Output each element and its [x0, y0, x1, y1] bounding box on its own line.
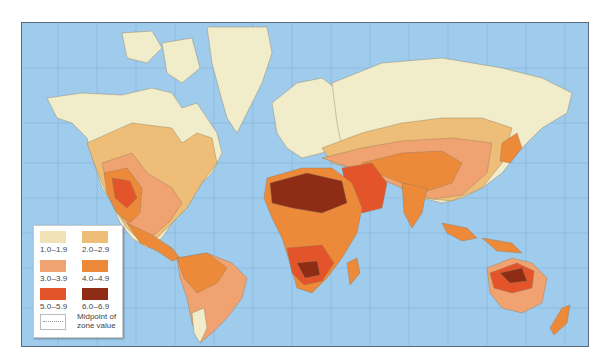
legend-swatch-4 [82, 260, 108, 272]
midpoint-label-line2: zone value [77, 321, 116, 330]
legend-label-5: 5.0–5.9 [40, 302, 67, 311]
midpoint-line-sample [40, 314, 66, 330]
legend-swatch-3 [40, 260, 66, 272]
legend-label-2: 2.0–2.9 [82, 245, 109, 254]
legend-label-3: 3.0–3.9 [40, 274, 67, 283]
legend-label-4: 4.0–4.9 [82, 274, 109, 283]
legend-swatch-2 [82, 231, 108, 243]
legend-label-1: 1.0–1.9 [40, 245, 67, 254]
midpoint-label: Midpoint of zone value [77, 312, 116, 330]
map-legend: 1.0–1.9 2.0–2.9 3.0–3.9 4.0–4.9 5.0–5.9 … [33, 225, 123, 338]
legend-swatch-6 [82, 288, 108, 300]
greenland [207, 27, 272, 133]
legend-swatch-5 [40, 288, 66, 300]
midpoint-label-line1: Midpoint of [77, 312, 116, 321]
legend-label-6: 6.0–6.9 [82, 302, 109, 311]
legend-swatch-1 [40, 231, 66, 243]
